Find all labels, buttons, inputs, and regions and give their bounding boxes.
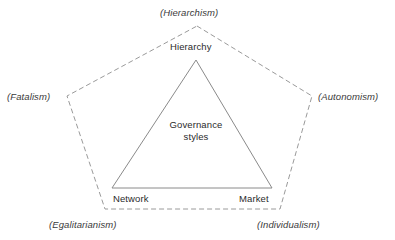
- pentagon-label-fatalism: (Fatalism): [7, 91, 50, 102]
- governance-styles-diagram: (Hierarchism) (Fatalism) (Autonomism) (E…: [0, 0, 395, 240]
- pentagon-label-individualism: (Individualism): [257, 219, 320, 230]
- pentagon-label-autonomism: (Autonomism): [318, 91, 378, 102]
- center-caption-line1: Governance: [153, 119, 239, 131]
- triangle-label-hierarchy: Hierarchy: [170, 41, 212, 52]
- outer-pentagon-shape: [67, 26, 312, 209]
- triangle-label-market: Market: [239, 193, 269, 204]
- pentagon-label-hierarchism: (Hierarchism): [160, 7, 218, 18]
- center-caption-line2: styles: [153, 131, 239, 143]
- pentagon-label-egalitarianism: (Egalitarianism): [49, 219, 117, 230]
- triangle-label-network: Network: [113, 193, 149, 204]
- diagram-center-caption: Governance styles: [153, 119, 239, 142]
